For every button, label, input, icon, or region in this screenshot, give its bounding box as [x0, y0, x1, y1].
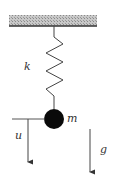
spring-constant-label: k — [24, 60, 31, 73]
ceiling-support — [9, 15, 97, 26]
spring — [46, 26, 63, 109]
ceiling-hatch — [9, 15, 97, 26]
spring-mass-diagram: k m u g — [0, 0, 115, 182]
gravity-label: g — [100, 143, 107, 156]
mass-label: m — [67, 112, 77, 125]
displacement-label: u — [15, 129, 22, 142]
mass-ball — [44, 109, 64, 129]
